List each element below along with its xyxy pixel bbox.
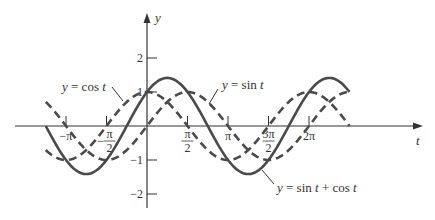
leader-sum xyxy=(262,170,274,184)
x-tick-label-den: 2 xyxy=(185,141,191,155)
x-tick-label-num: 3π xyxy=(262,127,274,141)
x-tick-label-sign: − xyxy=(97,134,104,148)
y-axis-arrow-icon xyxy=(144,13,151,23)
axes: y t xyxy=(15,10,423,208)
label-sum: y = sin t + cos t xyxy=(275,180,357,195)
x-axis-arrow-icon xyxy=(413,123,423,130)
x-tick-label: π xyxy=(225,129,231,143)
y-tick-label: 2 xyxy=(137,51,143,65)
x-tick-label-num: π xyxy=(106,127,112,141)
label-cos: y = cos t xyxy=(60,79,106,94)
x-tick-label-den: 2 xyxy=(266,141,272,155)
x-tick-label-num: π xyxy=(184,127,190,141)
y-axis-label: y xyxy=(153,10,161,25)
label-sin: y = sin t xyxy=(220,77,264,92)
x-tick-label: −π xyxy=(60,129,73,143)
leader-sin xyxy=(209,89,218,104)
x-axis-label: t xyxy=(416,133,420,148)
chart-plot: y t −ππ2−π2π3π22π21−1−2 y = cos t y = si… xyxy=(0,0,435,220)
leader-cos xyxy=(112,87,123,101)
y-tick-label: −1 xyxy=(130,153,143,167)
y-tick-label: −2 xyxy=(130,187,143,201)
